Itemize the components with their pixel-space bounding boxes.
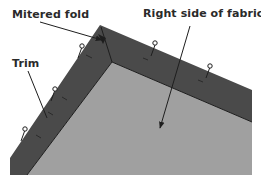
mitered-fold-label: Mitered fold (12, 8, 89, 21)
right-side-of-fabric-label: Right side of fabric (143, 7, 261, 20)
mitered-fold-leader (40, 22, 102, 40)
mitered-corner-diagram (0, 0, 261, 190)
trim-leader (28, 71, 47, 118)
trim-label: Trim (12, 57, 39, 70)
